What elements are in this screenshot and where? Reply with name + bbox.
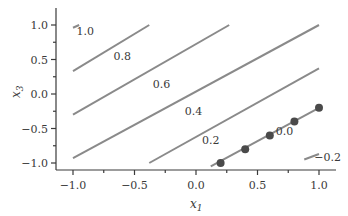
data-point (315, 104, 323, 112)
y-tick-label: 1.0 (31, 19, 49, 32)
contour-label: 0.0 (276, 125, 294, 138)
contour-line-5 (211, 108, 319, 167)
data-point (266, 131, 274, 139)
x-tick-label: 1.0 (310, 179, 328, 192)
y-tick-label: −0.5 (21, 123, 48, 136)
contour-chart: 1.00.80.60.40.20.0−0.2 −1.0−0.50.00.51.0… (0, 0, 348, 216)
contour-label: −0.2 (314, 151, 341, 164)
contour-label: 1.0 (77, 25, 95, 38)
y-axis-label: x3 (9, 85, 25, 98)
x-ticks: −1.0−0.50.00.51.0 (60, 170, 328, 192)
y-ticks: 1.00.50.0−0.5−1.0 (21, 19, 56, 170)
contour-label: 0.4 (185, 105, 203, 118)
contour-label: 0.8 (113, 50, 131, 63)
contour-label: 0.2 (202, 134, 220, 147)
data-point (290, 118, 298, 126)
x-tick-label: 0.0 (187, 179, 205, 192)
y-tick-label: 0.0 (31, 88, 49, 101)
contour-line-2 (73, 25, 229, 115)
y-tick-label: 0.5 (31, 54, 49, 67)
x-tick-label: −1.0 (60, 179, 87, 192)
x-axis-label: x1 (190, 197, 203, 213)
y-tick-label: −1.0 (21, 157, 48, 170)
plot-area: 1.00.80.60.40.20.0−0.2 (73, 25, 341, 167)
contour-line-4 (149, 68, 319, 163)
data-point (217, 159, 225, 167)
contour-label: 0.6 (153, 78, 171, 91)
data-point (241, 145, 249, 153)
x-tick-label: −0.5 (121, 179, 148, 192)
x-tick-label: 0.5 (249, 179, 267, 192)
